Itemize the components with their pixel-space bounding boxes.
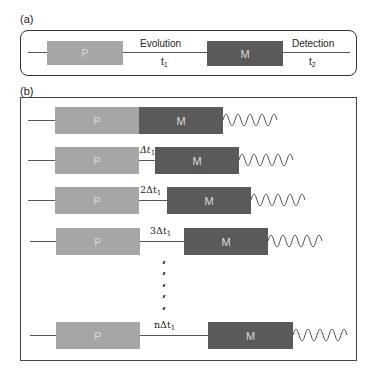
row4-pulse-block: P bbox=[56, 228, 140, 255]
mixing-label: M bbox=[240, 48, 249, 60]
pulse-label: P bbox=[81, 47, 88, 59]
row4-mixing-block: M bbox=[184, 228, 268, 255]
row4-delay-label: 3Δt1 bbox=[150, 225, 171, 238]
row5-mixing-block: M bbox=[208, 322, 293, 349]
row1-fid-wave-icon bbox=[223, 110, 279, 130]
panel-b-label: (b) bbox=[20, 85, 33, 97]
panel-a-pulse-block: P bbox=[47, 41, 123, 65]
panel-a-label: (a) bbox=[20, 13, 33, 25]
row2-lead-line bbox=[28, 160, 56, 161]
detection-label: Detection bbox=[292, 38, 334, 49]
row3-fid-wave-icon bbox=[251, 190, 307, 210]
detection-time: t2 bbox=[309, 56, 316, 68]
row2-mixing-block: M bbox=[155, 147, 239, 174]
row1-pulse-block: P bbox=[55, 107, 139, 134]
row2-fid-wave-icon bbox=[239, 150, 295, 170]
row3-pulse-block: P bbox=[55, 187, 139, 214]
row5-fid-wave-icon bbox=[293, 325, 351, 345]
row3-mixing-block: M bbox=[167, 187, 251, 214]
row5-pulse-block: P bbox=[56, 322, 140, 349]
row3-delay-label: 2Δt1 bbox=[140, 184, 161, 197]
row1-mixing-block: M bbox=[139, 107, 223, 134]
row5-delay-line bbox=[140, 335, 208, 336]
row4-lead-line bbox=[30, 241, 57, 242]
row5-delay-label: nΔt1 bbox=[154, 319, 175, 332]
row2-delay-label: Δt1 bbox=[140, 144, 155, 157]
row1-lead-line bbox=[28, 120, 56, 121]
row4-delay-line bbox=[140, 241, 184, 242]
row3-lead-line bbox=[28, 200, 56, 201]
row2-pulse-block: P bbox=[55, 147, 139, 174]
evolution-label: Evolution bbox=[140, 38, 181, 49]
row4-fid-wave-icon bbox=[268, 231, 324, 251]
row3-delay-line bbox=[139, 200, 167, 201]
row5-lead-line bbox=[30, 335, 57, 336]
evolution-time: t1 bbox=[161, 56, 168, 68]
row2-delay-line bbox=[139, 160, 155, 161]
panel-a-mixing-block: M bbox=[207, 41, 283, 66]
